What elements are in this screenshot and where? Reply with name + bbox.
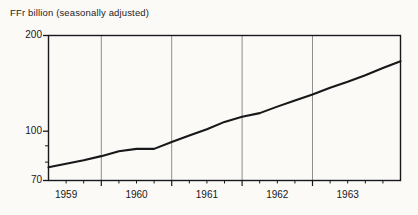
x-tick-label: 1963 [325, 189, 371, 200]
line-chart-plot [0, 0, 418, 215]
x-tick-label: 1960 [114, 189, 160, 200]
gridlines-group [101, 36, 312, 181]
y-ticks-group [43, 36, 49, 181]
y-tick-label: 70 [12, 174, 42, 185]
x-tick-label: 1962 [254, 189, 300, 200]
chart-figure: FFr billion (seasonally adjusted) 200100… [0, 0, 418, 215]
x-tick-label: 1961 [184, 189, 230, 200]
x-tick-label: 1959 [43, 189, 89, 200]
y-tick-label: 100 [12, 125, 42, 136]
y-tick-label: 200 [12, 29, 42, 40]
